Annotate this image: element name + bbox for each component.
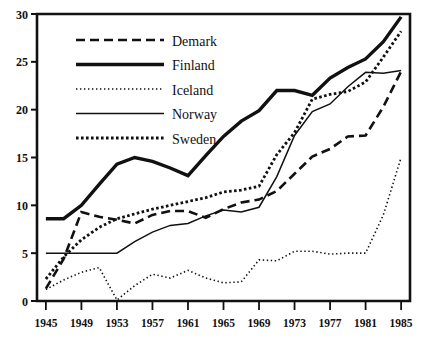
y-tick-label: 5 [22, 247, 28, 261]
x-tick-label: 1949 [70, 317, 93, 329]
series-line-norway [46, 70, 401, 253]
series-line-finland [46, 17, 401, 219]
y-tick-label: 30 [16, 8, 28, 22]
legend-label-iceland: Iceland [172, 83, 213, 98]
y-axis: 051015202530 [16, 8, 37, 309]
axis-frame [37, 14, 410, 301]
y-tick-label: 10 [16, 199, 28, 213]
chart-legend: DemarkFinlandIcelandNorwaySweden [76, 34, 217, 147]
y-tick-label: 0 [22, 295, 28, 309]
x-tick-label: 1957 [141, 317, 164, 329]
legend-label-norway: Norway [172, 107, 217, 122]
x-tick-label: 1985 [390, 317, 413, 329]
y-tick-label: 25 [16, 55, 28, 69]
x-tick-label: 1973 [283, 317, 306, 329]
y-tick-label: 20 [16, 103, 28, 117]
data-series-group [46, 17, 401, 300]
x-tick-label: 1945 [34, 317, 57, 329]
legend-label-finland: Finland [172, 58, 215, 73]
x-tick-label: 1981 [354, 317, 377, 329]
x-tick-label: 1953 [105, 317, 128, 329]
chart-canvas: 051015202530 194519491953195719611965196… [0, 0, 430, 342]
x-tick-label: 1969 [248, 317, 271, 329]
line-chart: 051015202530 194519491953195719611965196… [0, 0, 430, 342]
x-tick-label: 1965 [212, 317, 235, 329]
series-line-demark [46, 71, 401, 288]
x-tick-label: 1961 [176, 317, 199, 329]
x-axis: 1945194919531957196119651969197319771981… [34, 301, 412, 329]
series-line-iceland [46, 158, 401, 301]
y-tick-label: 15 [16, 151, 28, 165]
plot-frame [37, 14, 410, 301]
legend-label-sweden: Sweden [172, 132, 216, 147]
legend-label-demark: Demark [172, 34, 217, 49]
x-tick-label: 1977 [319, 317, 342, 329]
